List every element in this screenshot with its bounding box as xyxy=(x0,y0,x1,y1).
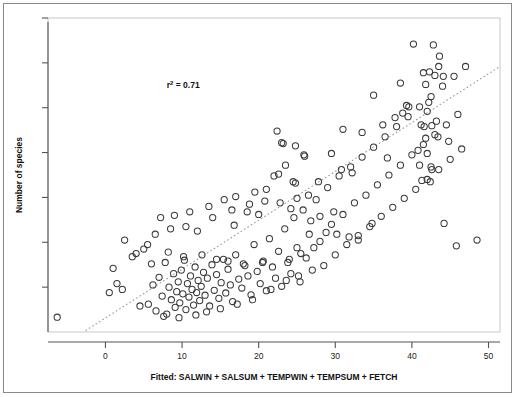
data-point xyxy=(441,220,447,226)
data-point xyxy=(194,228,200,234)
data-point xyxy=(240,261,246,267)
data-point xyxy=(233,252,239,258)
data-point xyxy=(426,99,432,105)
data-point xyxy=(176,315,182,321)
data-point xyxy=(183,223,189,229)
data-point xyxy=(218,280,224,286)
data-point xyxy=(359,154,365,160)
data-point xyxy=(274,128,280,134)
data-point xyxy=(254,268,260,274)
plot-panel xyxy=(48,18,500,332)
data-point xyxy=(432,72,438,78)
data-point xyxy=(447,156,453,162)
data-point xyxy=(400,110,406,116)
data-point xyxy=(114,280,120,286)
data-point xyxy=(420,70,426,76)
y-axis-title: Number of species xyxy=(14,137,24,213)
data-point xyxy=(413,186,419,192)
data-point xyxy=(288,206,294,212)
data-point xyxy=(334,231,340,237)
data-point xyxy=(213,256,219,262)
data-point xyxy=(378,213,384,219)
data-point xyxy=(194,289,200,295)
data-point xyxy=(416,104,422,110)
data-point xyxy=(282,226,288,232)
data-point xyxy=(106,289,112,295)
data-point xyxy=(234,301,240,307)
data-point xyxy=(269,264,275,270)
data-point xyxy=(244,209,250,215)
data-point xyxy=(428,93,434,99)
data-point xyxy=(323,229,329,235)
data-point xyxy=(451,73,457,79)
data-point xyxy=(122,237,128,243)
data-point xyxy=(231,222,237,228)
data-point xyxy=(144,241,150,247)
data-point xyxy=(424,150,430,156)
data-point xyxy=(338,167,344,173)
data-point xyxy=(436,53,442,59)
data-point xyxy=(207,303,213,309)
data-point xyxy=(325,184,331,190)
data-point xyxy=(242,263,248,269)
data-point xyxy=(440,73,446,79)
data-point xyxy=(165,249,171,255)
data-point xyxy=(355,237,361,243)
data-point xyxy=(211,287,217,293)
data-point xyxy=(216,295,222,301)
data-point xyxy=(294,195,300,201)
data-point xyxy=(171,212,177,218)
data-point xyxy=(236,276,242,282)
data-point xyxy=(166,284,172,290)
data-point xyxy=(332,252,338,258)
data-point xyxy=(158,215,164,221)
data-point xyxy=(209,262,215,268)
data-point xyxy=(328,150,334,156)
data-point xyxy=(410,41,416,47)
data-point xyxy=(217,306,223,312)
data-point xyxy=(192,264,198,270)
data-point xyxy=(363,192,369,198)
data-point xyxy=(245,273,251,279)
data-point xyxy=(346,234,352,240)
data-point xyxy=(197,298,203,304)
data-point xyxy=(171,271,177,277)
data-point xyxy=(397,80,403,86)
data-point xyxy=(294,245,300,251)
data-point xyxy=(266,236,272,242)
data-point xyxy=(370,92,376,98)
data-point xyxy=(305,192,311,198)
data-point xyxy=(328,221,334,227)
data-point xyxy=(392,114,398,120)
data-point xyxy=(393,123,399,129)
data-point xyxy=(380,122,386,128)
data-point xyxy=(148,261,154,267)
data-point xyxy=(277,200,283,206)
data-point xyxy=(443,122,449,128)
data-point xyxy=(162,259,168,265)
data-point xyxy=(446,138,452,144)
data-point xyxy=(311,245,317,251)
data-point xyxy=(282,162,288,168)
data-point xyxy=(300,207,306,213)
x-axis-title: Fitted: SALWIN + SALSUM + TEMPWIN + TEMP… xyxy=(151,372,398,382)
data-point xyxy=(291,215,297,221)
data-point xyxy=(384,155,390,161)
data-point xyxy=(229,207,235,213)
data-point xyxy=(423,81,429,87)
data-point xyxy=(184,280,190,286)
data-point xyxy=(297,279,303,285)
data-point xyxy=(195,277,201,283)
data-point xyxy=(459,146,465,152)
data-point xyxy=(295,273,301,279)
data-point xyxy=(415,147,421,153)
data-point xyxy=(159,293,165,299)
data-point xyxy=(193,312,199,318)
data-point xyxy=(382,134,388,140)
data-point xyxy=(272,275,278,281)
data-point xyxy=(153,308,159,314)
data-point xyxy=(416,162,422,168)
data-point xyxy=(401,195,407,201)
data-point xyxy=(198,283,204,289)
data-point xyxy=(283,277,289,283)
